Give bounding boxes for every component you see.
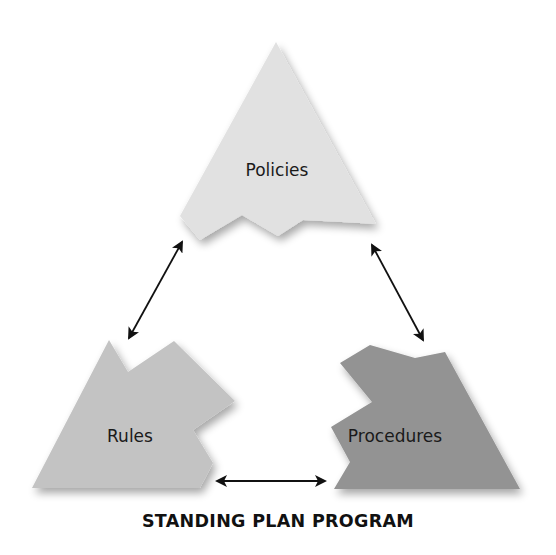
arrow-policies-rules [129,242,182,338]
arrow-policies-procedures [372,245,423,340]
procedures-node: Procedures [331,345,520,489]
diagram-title: STANDING PLAN PROGRAM [142,511,414,531]
policies-node: Policies [180,42,376,240]
rules-node: Rules [32,340,235,488]
policies-shape [180,42,376,240]
procedures-shape [331,345,520,489]
policies-label: Policies [246,160,309,180]
procedures-label: Procedures [348,426,442,446]
rules-label: Rules [107,426,153,446]
standing-plan-diagram: Policies Rules Procedures STANDING PLAN … [0,0,556,555]
rules-shape [32,340,235,488]
